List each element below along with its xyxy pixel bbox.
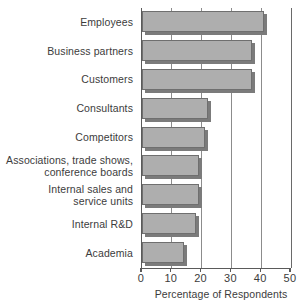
category-label: Competitors: [0, 132, 133, 144]
bar-body: [142, 11, 264, 32]
bar-body: [142, 127, 205, 148]
plot-area: [141, 8, 291, 269]
category-label: Internal sales and service units: [0, 184, 133, 207]
category-label: Consultants: [0, 103, 133, 115]
x-tick-label: 50: [284, 272, 297, 284]
bar-body: [142, 155, 199, 176]
bar[interactable]: [142, 98, 208, 119]
bar[interactable]: [142, 11, 264, 32]
category-label: Employees: [0, 17, 133, 29]
category-label: Customers: [0, 74, 133, 86]
bar-body: [142, 213, 196, 234]
category-label: Associations, trade shows, conference bo…: [0, 155, 133, 178]
bar[interactable]: [142, 184, 199, 205]
x-tick-label: 0: [138, 272, 144, 284]
gridline: [291, 8, 292, 268]
category-axis: EmployeesBusiness partnersCustomersConsu…: [0, 8, 137, 268]
bar[interactable]: [142, 242, 184, 263]
bar[interactable]: [142, 155, 199, 176]
x-axis: 01020304050: [141, 268, 290, 286]
category-label: Internal R&D: [0, 219, 133, 231]
gridline: [261, 8, 262, 268]
category-label: Academia: [0, 248, 133, 260]
x-tick-label: 30: [224, 272, 237, 284]
bar-body: [142, 98, 208, 119]
bar[interactable]: [142, 213, 196, 234]
x-axis-title: Percentage of Respondents: [141, 288, 301, 300]
x-tick-label: 20: [194, 272, 207, 284]
bar[interactable]: [142, 127, 205, 148]
bar-body: [142, 242, 184, 263]
bar-body: [142, 40, 252, 61]
bar[interactable]: [142, 40, 252, 61]
x-tick-label: 10: [164, 272, 177, 284]
x-tick-label: 40: [254, 272, 267, 284]
bar-body: [142, 184, 199, 205]
bar[interactable]: [142, 69, 252, 90]
bar-chart: EmployeesBusiness partnersCustomersConsu…: [0, 0, 304, 307]
category-label: Business partners: [0, 46, 133, 58]
bar-body: [142, 69, 252, 90]
